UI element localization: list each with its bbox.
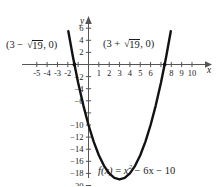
right-root-close: , 0) (140, 38, 154, 49)
x-tick-label: 10 (188, 68, 197, 78)
term1-exponent: 2 (128, 163, 132, 171)
right-root-annotation: (3 + √19, 0) (103, 38, 154, 50)
y-tick-label: 4 (79, 35, 84, 45)
y-axis-label: y (79, 16, 85, 26)
y-tick-label: −20 (70, 181, 83, 187)
x-tick-label: 8 (169, 68, 173, 78)
x-tick-label: -4 (44, 68, 52, 78)
x-tick-label: -5 (33, 68, 40, 78)
right-root-radicand: 19 (129, 39, 141, 51)
y-tick-label: −16 (70, 156, 83, 166)
term3: − 10 (156, 165, 175, 176)
x-tick-label: 4 (128, 68, 133, 78)
x-tick-label: 6 (148, 68, 152, 78)
x-tick-label: 9 (180, 68, 184, 78)
y-tick-label: −12 (70, 132, 83, 142)
left-root-annotation: (3 − √19, 0) (6, 39, 57, 51)
x-tick-label: 1 (97, 68, 101, 78)
x-tick-label: 5 (138, 68, 142, 78)
function-expression-label: f(x) = x2 − 6x − 10 (98, 164, 175, 176)
x-tick-label: 2 (107, 68, 111, 78)
y-axis-arrow-icon (85, 16, 92, 24)
graph-figure: -5-4-3-21234568910 −20−18−16−14−12−10−6−… (0, 0, 219, 186)
x-tick-label: -2 (64, 68, 71, 78)
left-root-open: (3 − (6, 39, 26, 50)
left-root-close: , 0) (43, 39, 57, 50)
y-tick-label: −10 (70, 120, 83, 130)
function-equals: = (115, 165, 121, 176)
root-marker-left (73, 63, 77, 67)
x-tick-label: 3 (117, 68, 121, 78)
y-tick-label: −14 (70, 144, 84, 154)
left-root-radicand: 19 (32, 40, 44, 52)
right-root-radical-group: √19 (123, 38, 140, 50)
y-tick-label: 2 (79, 47, 83, 57)
term2: − 6x (135, 165, 154, 176)
parabola-plot: -5-4-3-21234568910 −20−18−16−14−12−10−6−… (0, 0, 219, 186)
right-root-open: (3 + (103, 38, 123, 49)
function-arg: (x) (101, 165, 113, 176)
parabola-curve (68, 31, 170, 179)
left-root-radical-group: √19 (26, 39, 43, 51)
x-tick-label: -3 (54, 68, 61, 78)
y-tick-label: −18 (70, 168, 83, 178)
root-marker-right (163, 63, 167, 67)
x-axis-tick-labels: -5-4-3-21234568910 (33, 68, 196, 78)
x-axis-label: x (206, 65, 212, 75)
